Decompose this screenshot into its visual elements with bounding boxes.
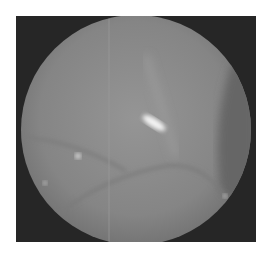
bright-spot <box>43 181 47 185</box>
image-frame <box>16 16 256 242</box>
bright-spot <box>223 194 227 198</box>
bright-spot <box>75 153 81 159</box>
fundus-disc <box>21 16 251 242</box>
fundus-image <box>16 16 256 242</box>
